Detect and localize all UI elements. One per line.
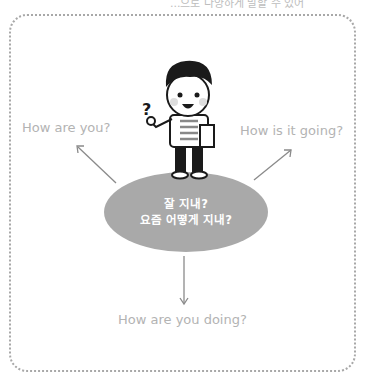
svg-text:?: ? [142,100,151,119]
label-how-are-you: How are you? [22,120,110,135]
label-how-are-you-doing: How are you doing? [118,312,247,327]
label-how-is-it-going: How is it going? [240,123,343,138]
bubble-line-1: 잘 지내? [104,196,268,212]
arrow-left-icon [78,147,116,183]
bubble-text: 잘 지내? 요즘 어떻게 지내? [104,196,268,228]
arrow-right-icon [254,150,291,180]
bubble-line-2: 요즘 어떻게 지내? [104,212,268,228]
thinking-boy-icon: ? [140,55,240,185]
